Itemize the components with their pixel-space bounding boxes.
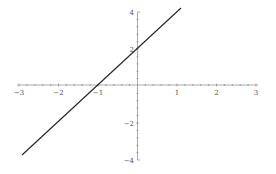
y-tick-label: 4	[130, 9, 135, 17]
chart-canvas: −3 −2 −1 1 2 3 4 2 −2 −4	[0, 0, 276, 174]
y-tick-label: −2	[124, 120, 134, 128]
x-tick-label: −2	[53, 89, 63, 97]
data-line	[22, 8, 181, 155]
x-tick-label: −3	[14, 89, 24, 97]
x-tick-labels: −3 −2 −1 1 2 3	[14, 89, 258, 97]
x-tick-label: 1	[175, 89, 179, 97]
y-tick-labels: 4 2 −2 −4	[124, 9, 135, 165]
x-tick-label: 3	[254, 89, 258, 97]
y-tick-label: −4	[124, 157, 135, 165]
x-tick-label: 2	[214, 89, 218, 97]
y-axis	[136, 12, 140, 160]
x-tick-label: −1	[93, 89, 103, 97]
